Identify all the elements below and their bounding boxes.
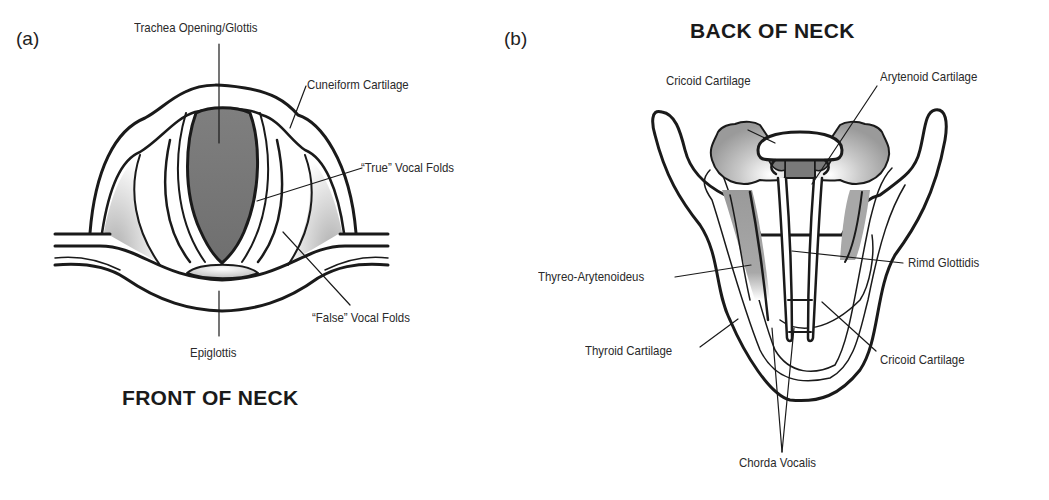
panel-b-letter: (b)	[504, 28, 527, 50]
caption-front-of-neck: FRONT OF NECK	[122, 386, 299, 410]
label-chorda-vocalis: Chorda Vocalis	[739, 455, 816, 470]
panel-b-drawing	[653, 86, 947, 452]
label-arytenoid-cartilage: Arytenoid Cartilage	[880, 69, 977, 84]
label-epiglottis: Epiglottis	[190, 345, 236, 360]
label-thyreo-arytenoideus: Thyreo-Arytenoideus	[538, 269, 644, 284]
label-rimd-glottidis: Rimd Glottidis	[908, 255, 979, 270]
label-false-vocal-folds: “False” Vocal Folds	[312, 310, 410, 325]
label-thyroid-cartilage: Thyroid Cartilage	[585, 343, 672, 358]
label-trachea-opening: Trachea Opening/Glottis	[134, 20, 258, 35]
figure: (a) Trachea Opening/Glottis Cuneiform Ca…	[0, 0, 1049, 500]
panel-a-letter: (a)	[16, 28, 39, 50]
label-cricoid-cartilage-top: Cricoid Cartilage	[666, 73, 751, 88]
label-true-vocal-folds: “True” Vocal Folds	[361, 160, 454, 175]
caption-back-of-neck: BACK OF NECK	[690, 19, 855, 43]
label-cricoid-cartilage-bottom: Cricoid Cartilage	[880, 352, 965, 367]
label-cuneiform-cartilage: Cuneiform Cartilage	[307, 77, 409, 92]
